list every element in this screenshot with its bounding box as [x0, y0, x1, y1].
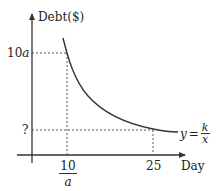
curve-equation-label: y = k x — [180, 122, 210, 145]
y-tick-question: ? — [22, 124, 28, 136]
x-tick-10-over-a: 10 a — [59, 160, 77, 188]
x-tick-denominator: a — [59, 174, 77, 188]
x-axis-label: Day — [181, 160, 205, 172]
y-axis-label: Debt($) — [38, 11, 84, 23]
equation-fraction: k x — [201, 122, 210, 145]
y-tick-10a-number: 10 — [7, 46, 22, 60]
x-tick-numerator: 10 — [59, 160, 77, 174]
x-tick-25: 25 — [146, 160, 161, 172]
equation-denominator: x — [201, 134, 210, 145]
equation-lhs: y — [180, 128, 187, 140]
y-tick-10a: 10a — [7, 47, 29, 59]
equation-equals: = — [189, 128, 199, 140]
y-tick-10a-variable: a — [22, 46, 29, 60]
curve-k-over-x — [63, 38, 178, 132]
